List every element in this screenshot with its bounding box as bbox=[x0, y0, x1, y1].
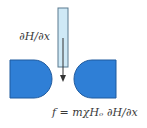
force-formula: f = mχHₒ ∂H/∂x bbox=[52, 106, 138, 119]
field-gradient-label: ∂H/∂x bbox=[19, 30, 50, 43]
right-pole-piece bbox=[74, 60, 116, 98]
diagram-canvas: ∂H/∂x f = mχHₒ ∂H/∂x bbox=[0, 0, 147, 128]
force-arrow-head-icon bbox=[60, 75, 66, 82]
left-pole-piece bbox=[10, 60, 52, 98]
